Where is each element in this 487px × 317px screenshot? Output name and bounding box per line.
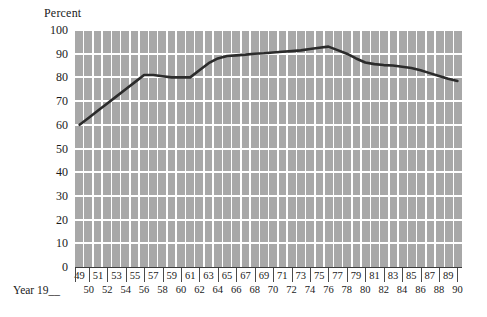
x-tick-82: 82 [378, 284, 389, 295]
y-tick-100: 100 [50, 24, 68, 36]
x-tick-84: 84 [397, 284, 408, 295]
x-tick-53: 53 [111, 270, 122, 281]
x-tick-79: 79 [351, 270, 362, 281]
x-tick-78: 78 [342, 284, 353, 295]
x-tick-59: 59 [167, 270, 178, 281]
x-tick-56: 56 [139, 284, 150, 295]
x-tick-separator [163, 268, 164, 282]
x-tick-separator [402, 268, 403, 282]
y-tick-70: 70 [56, 95, 68, 107]
x-tick-separator [365, 268, 366, 282]
x-tick-separator [421, 268, 422, 282]
x-tick-51: 51 [93, 270, 104, 281]
x-tick-73: 73 [296, 270, 307, 281]
x-axis-tick-labels: 4950515253545556575859606162636465666768… [75, 268, 462, 312]
x-tick-72: 72 [286, 284, 297, 295]
x-tick-88: 88 [434, 284, 445, 295]
x-tick-separator [292, 268, 293, 282]
x-tick-67: 67 [240, 270, 251, 281]
x-tick-61: 61 [185, 270, 196, 281]
x-tick-65: 65 [222, 270, 233, 281]
x-tick-separator [199, 268, 200, 282]
y-tick-20: 20 [56, 214, 68, 226]
y-tick-30: 30 [56, 190, 68, 202]
x-tick-68: 68 [249, 284, 260, 295]
x-tick-separator [273, 268, 274, 282]
x-tick-80: 80 [360, 284, 371, 295]
x-tick-74: 74 [305, 284, 316, 295]
x-tick-separator [89, 268, 90, 282]
x-tick-separator [255, 268, 256, 282]
x-tick-89: 89 [443, 270, 454, 281]
x-tick-52: 52 [102, 284, 113, 295]
x-tick-separator [328, 268, 329, 282]
x-tick-77: 77 [332, 270, 343, 281]
x-tick-separator [347, 268, 348, 282]
x-tick-69: 69 [259, 270, 270, 281]
x-tick-90: 90 [452, 284, 463, 295]
y-tick-10: 10 [56, 237, 68, 249]
x-tick-76: 76 [323, 284, 334, 295]
x-tick-87: 87 [425, 270, 436, 281]
x-tick-60: 60 [176, 284, 187, 295]
x-tick-separator [144, 268, 145, 282]
y-tick-40: 40 [56, 166, 68, 178]
x-tick-55: 55 [130, 270, 141, 281]
x-tick-54: 54 [120, 284, 131, 295]
x-tick-separator [310, 268, 311, 282]
x-axis-caption: Year 19__ [13, 284, 60, 296]
x-tick-85: 85 [406, 270, 417, 281]
x-tick-separator [218, 268, 219, 282]
x-tick-separator [107, 268, 108, 282]
x-tick-50: 50 [84, 284, 95, 295]
x-tick-86: 86 [415, 284, 426, 295]
y-tick-80: 80 [56, 71, 68, 83]
x-tick-83: 83 [388, 270, 399, 281]
x-tick-75: 75 [314, 270, 325, 281]
x-tick-81: 81 [369, 270, 380, 281]
x-tick-70: 70 [268, 284, 279, 295]
x-tick-separator [181, 268, 182, 282]
y-tick-90: 90 [56, 48, 68, 60]
x-tick-separator [236, 268, 237, 282]
x-tick-66: 66 [231, 284, 242, 295]
y-tick-60: 60 [56, 119, 68, 131]
x-tick-separator [439, 268, 440, 282]
x-tick-separator [126, 268, 127, 282]
x-tick-separator [457, 268, 458, 282]
x-tick-64: 64 [213, 284, 224, 295]
data-line-series [75, 30, 462, 267]
x-tick-separator [384, 268, 385, 282]
x-tick-57: 57 [148, 270, 159, 281]
y-tick-50: 50 [56, 143, 68, 155]
x-tick-58: 58 [157, 284, 168, 295]
plot-area [75, 30, 462, 267]
x-tick-63: 63 [203, 270, 214, 281]
x-tick-71: 71 [277, 270, 288, 281]
x-tick-62: 62 [194, 284, 205, 295]
chart-figure: Percent 0102030405060708090100 495051525… [0, 0, 487, 317]
x-tick-separator [75, 268, 76, 282]
y-axis-tick-labels: 0102030405060708090100 [0, 0, 75, 297]
y-tick-0: 0 [62, 261, 68, 273]
series-polyline [80, 47, 458, 125]
